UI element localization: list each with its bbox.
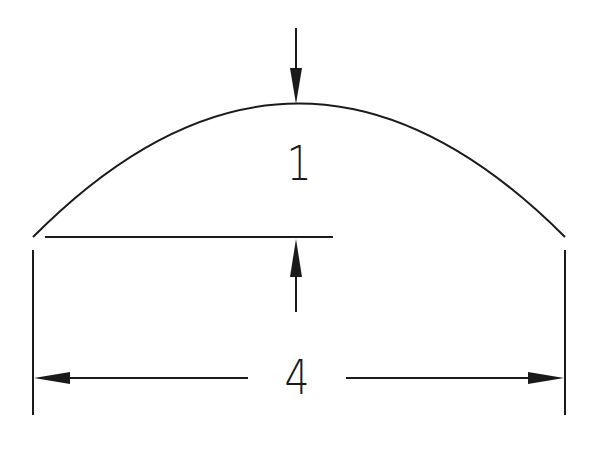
width-left-arrow — [34, 372, 248, 384]
arrow-up-icon — [290, 239, 302, 277]
width-dimension-label: 4 — [284, 353, 309, 401]
height-dimension-label: 1 — [286, 139, 311, 187]
height-top-arrow — [290, 28, 302, 104]
arrow-down-icon — [290, 68, 302, 104]
arrow-right-icon — [528, 372, 564, 384]
height-bottom-arrow — [290, 239, 302, 312]
arrow-left-icon — [34, 372, 70, 384]
width-right-arrow — [346, 372, 564, 384]
